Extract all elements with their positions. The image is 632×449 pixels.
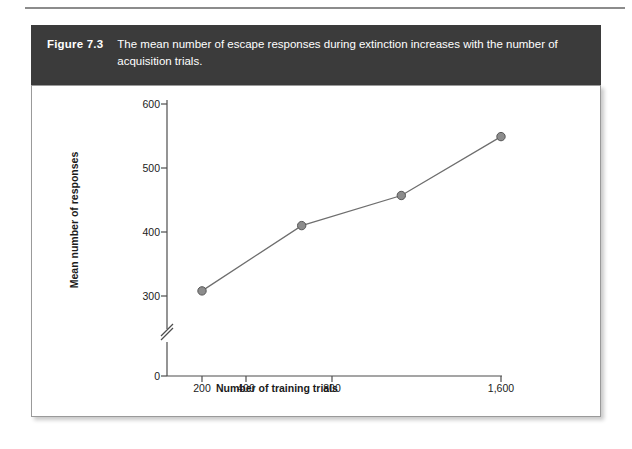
data-point-200	[198, 287, 206, 295]
data-series-markers	[198, 132, 505, 295]
figure-caption-inner: Figure 7.3 The mean number of escape res…	[47, 36, 583, 70]
data-point-800	[397, 191, 405, 199]
figure-caption-text: The mean number of escape responses duri…	[117, 36, 572, 70]
line-chart: Mean number of responses 600 500 400 300…	[32, 86, 602, 418]
figure-page: Figure 7.3 The mean number of escape res…	[0, 0, 632, 449]
data-point-400	[298, 221, 306, 229]
data-series-line	[202, 137, 501, 291]
figure-caption-bar: Figure 7.3 The mean number of escape res…	[31, 25, 601, 85]
figure-panel: Mean number of responses 600 500 400 300…	[31, 85, 601, 417]
figure-number-label: Figure 7.3	[47, 36, 103, 53]
data-point-1600	[497, 132, 505, 140]
page-top-rule	[25, 7, 625, 9]
plot-area	[32, 86, 602, 418]
